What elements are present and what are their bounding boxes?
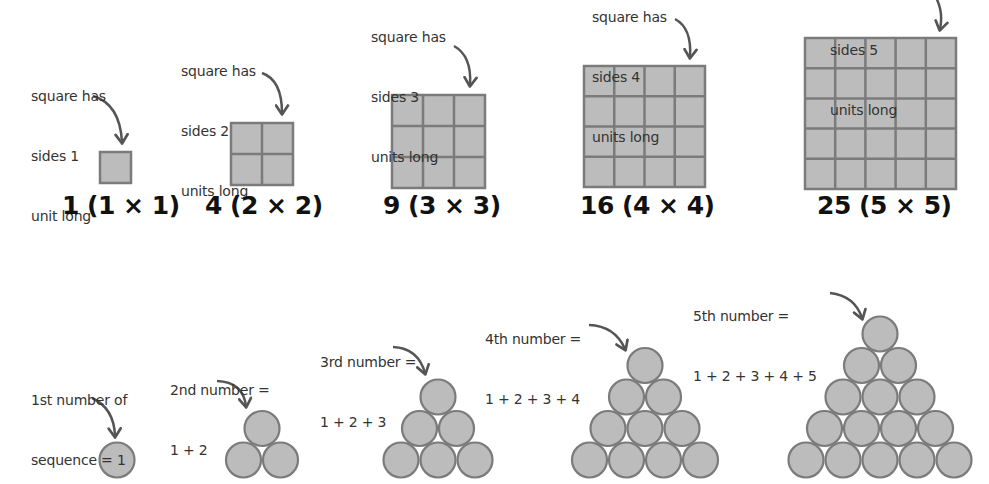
counter-circle bbox=[646, 380, 681, 415]
counter-circle bbox=[863, 380, 898, 415]
counter-circle bbox=[421, 380, 456, 415]
counter-circle bbox=[789, 443, 824, 478]
counter-circle bbox=[844, 411, 879, 446]
counter-circle bbox=[900, 380, 935, 415]
counter-circle bbox=[881, 411, 916, 446]
arrow-icon bbox=[675, 19, 690, 57]
counter-circle bbox=[628, 348, 663, 383]
counter-circle bbox=[900, 443, 935, 478]
counter-circle bbox=[844, 348, 879, 383]
triangle-3-note: 3rd number = 1 + 2 + 3 bbox=[320, 312, 416, 472]
square-5-note: square has sides 5 units long bbox=[830, 0, 905, 160]
triangle-4-note: 4th number = 1 + 2 + 3 + 4 bbox=[485, 289, 581, 449]
counter-circle bbox=[591, 411, 626, 446]
counter-circle bbox=[863, 443, 898, 478]
counter-circle bbox=[937, 443, 972, 478]
counter-circle bbox=[421, 443, 456, 478]
number-sequences-diagram: square has sides 1 unit long square has … bbox=[0, 0, 989, 484]
square-4-note: square has sides 4 units long bbox=[592, 0, 667, 187]
arrow-icon bbox=[934, 0, 941, 29]
counter-circle bbox=[439, 411, 474, 446]
counter-circle bbox=[683, 443, 718, 478]
counter-circle bbox=[863, 317, 898, 352]
counter-circle bbox=[609, 380, 644, 415]
triangle-2-note: 2nd number = 1 + 2 bbox=[170, 340, 270, 484]
counter-circle bbox=[826, 380, 861, 415]
counter-circle bbox=[609, 443, 644, 478]
square-1-note: square has sides 1 unit long bbox=[31, 46, 106, 266]
square-3-label: 9 (3 × 3) bbox=[383, 191, 501, 221]
square-2-label: 4 (2 × 2) bbox=[205, 191, 323, 221]
triangle-1-note: 1st number of sequence = 1 bbox=[31, 350, 127, 484]
counter-circle bbox=[826, 443, 861, 478]
triangle-5-note: 5th number = 1 + 2 + 3 + 4 + 5 bbox=[693, 266, 817, 426]
square-5-label: 25 (5 × 5) bbox=[817, 191, 952, 221]
arrow-icon bbox=[454, 46, 470, 85]
arrow-icon bbox=[830, 293, 862, 318]
square-1-label: 1 (1 × 1) bbox=[62, 191, 180, 221]
arrow-icon bbox=[262, 73, 282, 113]
counter-circle bbox=[646, 443, 681, 478]
counter-circle bbox=[628, 411, 663, 446]
counter-circle bbox=[881, 348, 916, 383]
arrow-icon bbox=[589, 325, 625, 349]
square-4-label: 16 (4 × 4) bbox=[580, 191, 715, 221]
counter-circle bbox=[918, 411, 953, 446]
square-3-note: square has sides 3 units long bbox=[371, 0, 446, 207]
